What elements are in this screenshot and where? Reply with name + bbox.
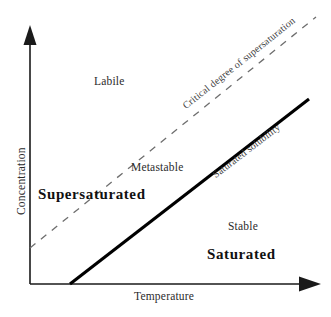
y-axis-arrowhead: [24, 25, 37, 45]
region-label-stable: Stable: [228, 221, 258, 233]
x-axis-arrowhead: [299, 277, 321, 292]
y-axis-title: Concentration: [16, 147, 28, 215]
region-label-labile: Labile: [94, 76, 125, 88]
region-label-saturated: Saturated: [207, 247, 276, 262]
x-axis-title: Temperature: [134, 291, 194, 303]
region-label-supersaturated: Supersaturated: [38, 187, 146, 202]
diagram-canvas: [0, 0, 331, 317]
region-label-metastable: Metastable: [131, 162, 183, 174]
solubility-phase-diagram: Labile Metastable Stable Supersaturated …: [0, 0, 331, 317]
